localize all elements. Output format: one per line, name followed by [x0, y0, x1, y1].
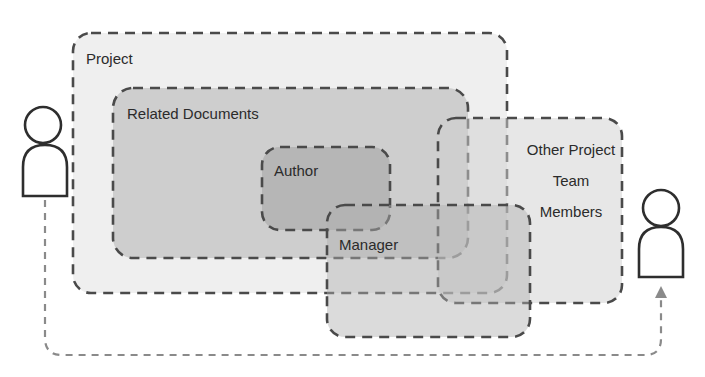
related-documents-label: Related Documents	[127, 105, 259, 122]
right-person-head	[643, 190, 679, 226]
arrowhead-icon	[655, 286, 667, 298]
project-label: Project	[86, 50, 134, 67]
scope-diagram: Project Related Documents Author Other P…	[0, 0, 705, 377]
left-person-icon	[23, 107, 67, 196]
author-label: Author	[274, 162, 318, 179]
other-team-label-line-1: Other Project	[527, 141, 616, 158]
right-person-icon	[639, 190, 683, 277]
other-team-label-line-2: Team	[553, 172, 590, 189]
left-person-head	[25, 107, 61, 143]
right-person-body	[639, 227, 683, 277]
manager-box	[327, 205, 530, 337]
other-team-label-line-3: Members	[540, 203, 603, 220]
manager-label: Manager	[339, 236, 398, 253]
left-person-body	[23, 145, 67, 196]
manager-region: Manager	[327, 205, 530, 337]
